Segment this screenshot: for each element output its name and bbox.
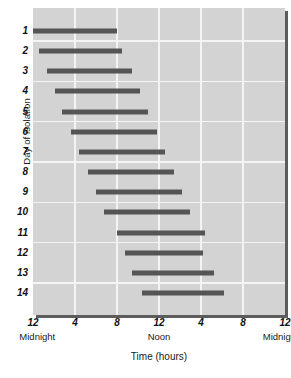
gridline-horizontal: [33, 161, 285, 163]
y-tick-label-8: 8: [22, 167, 28, 177]
bar-day-4: [55, 89, 140, 94]
gridline-horizontal: [33, 202, 285, 204]
gridline-horizontal: [33, 121, 285, 123]
bar-day-9: [96, 190, 182, 195]
y-tick-label-10: 10: [17, 207, 28, 217]
bar-day-14: [142, 291, 224, 296]
x-axis-sub-labels: MidnightNoonMidnight: [33, 332, 285, 346]
bar-day-7: [79, 149, 165, 154]
bar-day-2: [39, 49, 122, 54]
gridline-horizontal: [33, 242, 285, 244]
x-tick-label-0: 12: [27, 318, 38, 328]
y-tick-label-7: 7: [22, 147, 28, 157]
bar-day-10: [104, 210, 190, 215]
bar-day-12: [125, 250, 203, 255]
bar-day-8: [88, 170, 174, 175]
y-tick-label-9: 9: [22, 187, 28, 197]
y-tick-label-1: 1: [22, 26, 28, 36]
y-tick-label-11: 11: [18, 228, 28, 238]
x-tick-label-2: 8: [114, 318, 120, 328]
y-axis-tick-labels: 1234567891011121314: [0, 8, 31, 315]
gridline-horizontal: [33, 282, 285, 284]
bar-day-1: [33, 29, 117, 34]
x-sublabel-0: Midnight: [19, 332, 55, 342]
x-axis-title: Time (hours): [33, 352, 285, 362]
x-sublabel-1: Noon: [148, 332, 171, 342]
chart-figure: Day of isolation 1234567891011121314 124…: [0, 0, 291, 378]
bar-day-11: [117, 230, 205, 235]
x-axis-tick-labels: 1248124812: [33, 318, 285, 332]
x-tick-label-6: 12: [279, 318, 290, 328]
y-tick-label-13: 13: [17, 268, 28, 278]
y-tick-label-6: 6: [22, 127, 28, 137]
y-tick-label-3: 3: [22, 66, 28, 76]
y-tick-label-12: 12: [17, 248, 28, 258]
y-tick-label-5: 5: [22, 107, 28, 117]
x-tick-label-4: 4: [198, 318, 204, 328]
bar-day-3: [47, 69, 132, 74]
x-tick-label-1: 4: [72, 318, 78, 328]
gridline-horizontal: [33, 40, 285, 42]
x-tick-label-5: 8: [240, 318, 246, 328]
y-tick-label-2: 2: [22, 46, 28, 56]
bar-day-6: [71, 129, 157, 134]
x-sublabel-2: Midnight: [263, 332, 291, 342]
y-tick-label-14: 14: [17, 288, 28, 298]
bar-day-13: [132, 270, 214, 275]
y-tick-label-4: 4: [22, 86, 28, 96]
x-tick-label-3: 12: [153, 318, 164, 328]
bar-day-5: [62, 109, 148, 114]
plot-area: [33, 8, 285, 315]
gridline-horizontal: [33, 81, 285, 83]
